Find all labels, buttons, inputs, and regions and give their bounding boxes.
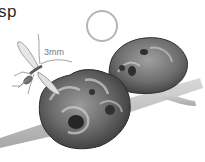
- illustration: sp: [0, 0, 205, 162]
- gall-illustration: [0, 0, 205, 162]
- size-circle: [87, 11, 117, 41]
- scale-label: 3mm: [44, 47, 64, 57]
- large-gall: [39, 70, 130, 149]
